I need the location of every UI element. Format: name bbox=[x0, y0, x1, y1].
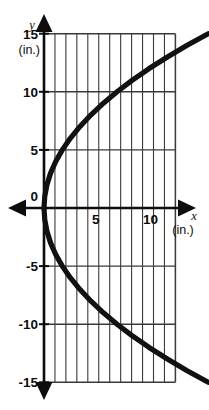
x-tick-label-5: 5 bbox=[92, 212, 100, 227]
y-tick-label-minus-10: -10 bbox=[18, 317, 38, 332]
y-axis-variable-label: y bbox=[27, 18, 35, 32]
coordinate-plane-svg: 15 10 5 0 -5 -10 -15 5 10 y (in.) x (in.… bbox=[0, 0, 209, 410]
y-axis-unit-label: (in.) bbox=[18, 43, 40, 57]
y-tick-label-0: 0 bbox=[30, 189, 38, 204]
y-tick-label-minus-15: -15 bbox=[18, 375, 38, 390]
x-axis-arrow-left bbox=[8, 200, 26, 217]
y-axis-arrow-down bbox=[36, 382, 53, 400]
x-tick-label-10: 10 bbox=[143, 212, 158, 227]
y-tick-label-10: 10 bbox=[23, 85, 38, 100]
axes-group bbox=[8, 14, 196, 400]
y-tick-label-5: 5 bbox=[30, 143, 38, 158]
y-tick-label-minus-5: -5 bbox=[26, 259, 38, 274]
y-axis-arrow-up bbox=[36, 14, 53, 32]
x-axis-variable-label: x bbox=[190, 209, 197, 223]
parabola-graph-figure: 15 10 5 0 -5 -10 -15 5 10 y (in.) x (in.… bbox=[0, 0, 209, 410]
x-axis-unit-label: (in.) bbox=[172, 223, 194, 237]
